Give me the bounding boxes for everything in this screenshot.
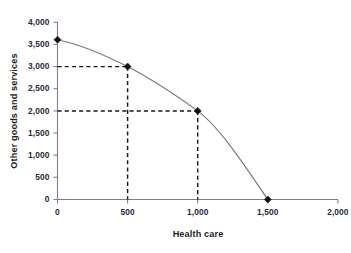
y-tick-label-3500: 3,500 xyxy=(28,39,50,49)
y-axis-title: Other goods and services xyxy=(9,53,19,168)
chart-plot-area: 0 500 1,000 1,500 2,000 2,500 3,000 3,50… xyxy=(0,0,351,253)
x-tick-labels: 0 500 1,000 1,500 2,000 xyxy=(55,207,349,217)
y-tick-label-4000: 4,000 xyxy=(28,17,50,27)
ppf-curve-path xyxy=(58,40,268,200)
y-tick-label-500: 500 xyxy=(35,172,50,182)
x-axis-title: Health care xyxy=(173,229,224,239)
y-tick-label-2000: 2,000 xyxy=(28,106,50,116)
y-axis-ticks xyxy=(54,22,58,199)
y-tick-label-2500: 2,500 xyxy=(28,83,50,93)
guide-line-group-500-3000 xyxy=(58,67,128,200)
data-point-markers xyxy=(54,36,271,203)
clipped-caption-artifact xyxy=(0,246,351,253)
data-point-500-3000 xyxy=(124,63,131,70)
y-tick-label-3000: 3,000 xyxy=(28,61,50,71)
y-tick-label-0: 0 xyxy=(45,194,50,204)
x-tick-label-2000: 2,000 xyxy=(327,207,349,217)
y-tick-label-1500: 1,500 xyxy=(28,128,50,138)
y-tick-labels: 0 500 1,000 1,500 2,000 2,500 3,000 3,50… xyxy=(28,17,50,204)
data-point-0-3600 xyxy=(54,36,61,43)
x-tick-label-500: 500 xyxy=(120,207,135,217)
data-point-1500-0 xyxy=(264,196,271,203)
x-axis-ticks xyxy=(58,200,338,204)
y-tick-label-1000: 1,000 xyxy=(28,150,50,160)
x-tick-label-1000: 1,000 xyxy=(187,207,209,217)
x-tick-label-0: 0 xyxy=(55,207,60,217)
x-tick-label-1500: 1,500 xyxy=(257,207,279,217)
ppf-chart-figure: 0 500 1,000 1,500 2,000 2,500 3,000 3,50… xyxy=(0,0,351,253)
